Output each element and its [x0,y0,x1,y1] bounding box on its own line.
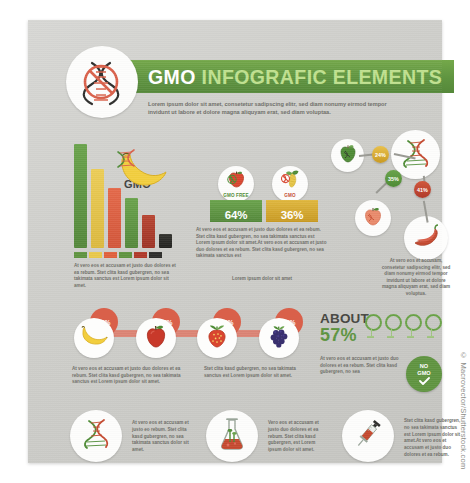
gmo-bar: 36% [266,200,318,222]
bar-chart-legend [74,252,162,258]
legend-swatch [134,252,147,258]
gmo-free-tag: GMO FREE [223,193,248,198]
bottom-text-dna: At vero eos et accusam et justo eo rebum… [132,420,190,454]
green-apple-icon [338,144,358,167]
network-badge-1: 24% [372,146,389,163]
no-gmo-line2: GMO [417,370,430,376]
blackberry-icon [267,325,291,352]
ring-stem-base [387,336,394,338]
legend-swatch [74,252,87,258]
fruit-disc-strawberry [197,318,237,358]
legend-swatch [149,252,162,258]
about-value: 57% [320,326,369,345]
bottom-disc-dna [70,410,122,462]
gmo-tag: GMO [284,193,295,198]
peach-icon [362,206,384,230]
bar-chart-caption: At vero eos et accusam et justo duo dolo… [74,263,178,289]
screenshot-root: GMO INFOGRAFIC ELEMENTS Lorem ipsum dolo… [0,0,470,483]
ring-icon [405,314,422,331]
infographic-poster: GMO INFOGRAFIC ELEMENTS Lorem ipsum dolo… [28,20,442,463]
page-title-highlight: GMO [148,66,196,88]
ring-stem-base [367,336,374,338]
legend-swatch [104,252,117,258]
about-label: ABOUT [320,312,369,326]
gmo-free-bar: 64% [210,200,262,222]
bottom-text-syringe: Stet clita kasd gubergren, no sea takima… [404,418,462,459]
bar-6 [159,234,172,248]
comparison-caption: At vero eos et accusam et justo duo dolo… [196,227,328,260]
no-gmo-badge: NO GMO [406,356,442,392]
no-gmo-dna-icon [66,46,138,118]
legend-swatch [89,252,102,258]
about-block: ABOUT 57% [320,312,369,345]
flask-icon [219,418,245,454]
fruit-disc-banana [74,318,114,358]
gmo-free-disc: GMO FREE [218,166,254,202]
ring-icon [425,314,442,331]
banana-icon [80,325,108,351]
fruit-disc-apple [136,318,176,358]
apple-icon [144,324,168,352]
page-title: GMO INFOGRAFIC ELEMENTS [148,64,448,90]
dna-double-helix-icon [80,418,112,454]
corn-gmo-icon [281,170,300,192]
network-badge-3: 41% [414,181,431,198]
comparison-caption-last: Lorem ipsum dolor sit amet [196,276,328,283]
bar-1 [74,144,87,248]
fruits-caption-left: At vero eos et accusam et justo duo dolo… [72,366,196,386]
header-subtitle: Lorem ipsum dolor sit amet, consetetur s… [148,100,398,117]
network-badge-2: 35% [385,170,402,187]
fruits-caption-right: Stet clita kasd gubergren, no sea takima… [204,366,304,379]
bar-5 [142,215,155,248]
about-caption: At vero eos et accusam et justo duo dolo… [320,356,400,376]
apple-gmo-free-icon [227,171,246,192]
chili-pepper-icon [411,223,441,253]
bar-3 [108,188,121,248]
bottom-text-flask: Vero eos et accusam et justo duo dolores… [268,420,326,454]
strawberry-icon [205,324,229,352]
page-title-rest: INFOGRAFIC ELEMENTS [202,66,443,88]
gmo-free-value: 64% [210,209,262,221]
banana-dna-icon [114,148,170,196]
ring-stem-base [427,336,434,338]
network-caption: At vero eos et accusam, consetetur sadip… [380,258,452,298]
bar-4 [125,198,138,248]
logo-disc [66,46,138,118]
legend-swatch [119,252,132,258]
bottom-disc-flask [206,410,258,462]
watermark: © Macrovector/Shutterstock.com [459,351,468,469]
bar-2 [91,169,104,248]
syringe-icon [353,418,383,454]
node-peach [355,200,391,236]
ring-stem-base [407,336,414,338]
check-icon [419,377,430,385]
gmo-disc: GMO [272,166,308,202]
ring-icon [365,314,382,331]
fruit-disc-blackberry [259,318,299,358]
gmo-value: 36% [266,209,318,221]
bottom-disc-syringe [342,410,394,462]
ring-icon [385,314,402,331]
node-chili [404,216,448,260]
